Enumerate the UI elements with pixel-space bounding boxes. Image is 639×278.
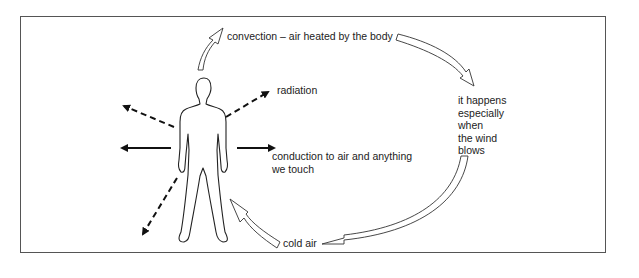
- convection-arrow-icon: [198, 28, 223, 70]
- cold-air-arrow-icon: [230, 199, 280, 248]
- wind-label-line: blows: [458, 144, 528, 157]
- conduction-label-line-1: conduction to air and anything: [272, 150, 412, 163]
- wind-label-line: it happens: [458, 94, 528, 107]
- conduction-label: conduction to air and anything we touch: [272, 150, 412, 175]
- radiation-arrow-up-right: [226, 92, 268, 117]
- wind-label: it happens especially when the wind blow…: [458, 94, 528, 157]
- convection-label: convection – air heated by the body: [227, 30, 393, 43]
- cold-air-label: cold air: [283, 237, 317, 250]
- wind-label-line: when: [458, 119, 528, 132]
- human-figure-icon: [179, 78, 228, 242]
- wind-label-line: especially: [458, 107, 528, 120]
- wind-label-line: the wind: [458, 132, 528, 145]
- radiation-arrow-down-left: [143, 178, 177, 234]
- radiation-label: radiation: [277, 84, 317, 97]
- radiation-arrow-up-left: [124, 106, 174, 127]
- wind-arrow-top-icon: [396, 34, 474, 86]
- conduction-label-line-2: we touch: [272, 163, 412, 176]
